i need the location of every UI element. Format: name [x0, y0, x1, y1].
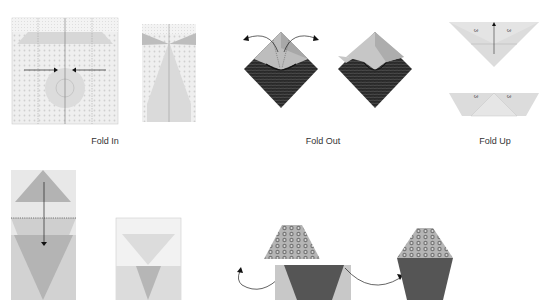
- fold-in-diagram-b: [142, 24, 196, 122]
- cone-diagram-b: [116, 218, 181, 300]
- cone-diagram-a: [11, 170, 76, 300]
- fold-up-diagram-b: 3 3: [449, 93, 539, 117]
- fold-mark-right-b: 3: [506, 95, 512, 98]
- fold-in-diagram-a: [12, 18, 118, 124]
- step-caption-fold-out: Fold Out: [283, 136, 363, 146]
- fold-mark-right: 3: [506, 29, 512, 32]
- curved-arrow-up-right-icon: [345, 268, 403, 285]
- fold-mark-left: 3: [473, 29, 479, 32]
- cupcake-diagram-a: [232, 225, 347, 300]
- fold-out-diagram-b: [334, 30, 416, 112]
- cupcake-diagram-b: [345, 228, 465, 300]
- fold-mark-left-b: 3: [473, 95, 479, 98]
- fold-out-diagram-a: [240, 30, 322, 112]
- fold-up-diagram-a: 3 3: [449, 22, 539, 70]
- step-caption-fold-up: Fold Up: [455, 136, 535, 146]
- step-caption-fold-in: Fold In: [65, 136, 145, 146]
